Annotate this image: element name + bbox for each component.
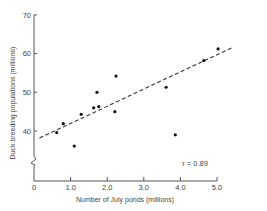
data-point bbox=[174, 133, 177, 136]
x-axis-ticks: 01.02.03.04.05.0 bbox=[32, 177, 222, 192]
data-point bbox=[55, 131, 58, 134]
data-point bbox=[97, 105, 100, 108]
y-axis-break bbox=[31, 156, 36, 167]
x-tick-label: 0 bbox=[32, 183, 36, 192]
data-point bbox=[95, 91, 98, 94]
data-point bbox=[80, 113, 83, 116]
x-axis-title: Number of July ponds (millions) bbox=[76, 196, 174, 204]
data-point bbox=[62, 122, 65, 125]
y-tick-label: 70 bbox=[23, 11, 31, 20]
x-tick-label: 4.0 bbox=[175, 183, 185, 192]
y-axis-ticks: 40506070 bbox=[23, 11, 37, 136]
data-points bbox=[55, 47, 220, 147]
data-point bbox=[216, 47, 219, 50]
correlation-label: r = 0.89 bbox=[182, 159, 208, 168]
x-tick-label: 1.0 bbox=[65, 183, 75, 192]
data-point bbox=[202, 59, 205, 62]
x-tick-label: 5.0 bbox=[212, 183, 222, 192]
data-point bbox=[113, 110, 116, 113]
data-point bbox=[114, 74, 117, 77]
data-point bbox=[92, 106, 95, 109]
y-tick-label: 60 bbox=[23, 49, 31, 58]
x-tick-label: 3.0 bbox=[139, 183, 149, 192]
y-tick-label: 50 bbox=[23, 88, 31, 97]
x-tick-label: 2.0 bbox=[102, 183, 112, 192]
y-axis-title: Duck breeding populations (millions) bbox=[9, 47, 17, 160]
scatter-chart: 40506070 01.02.03.04.05.0 r = 0.89 Numbe… bbox=[0, 0, 267, 211]
y-tick-label: 40 bbox=[23, 127, 31, 136]
data-point bbox=[165, 86, 168, 89]
data-point bbox=[73, 144, 76, 147]
